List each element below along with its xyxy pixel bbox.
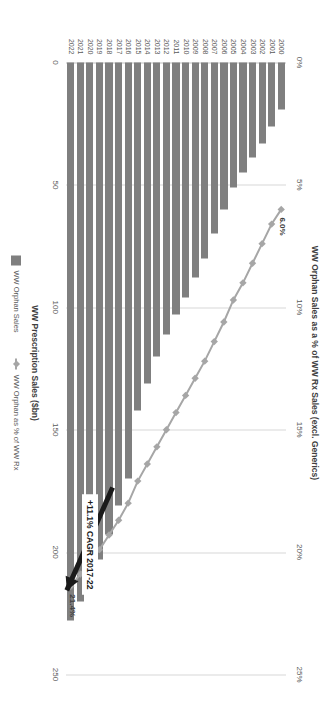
secondary-tick-label: 0% xyxy=(295,56,304,68)
legend-line-marker-icon xyxy=(11,358,22,369)
primary-tick-label: 200 xyxy=(51,545,60,558)
category-label: 2012 xyxy=(163,38,170,54)
category-label: 2002 xyxy=(259,38,266,54)
secondary-tick-label: 15% xyxy=(295,421,304,437)
primary-tick-label: 100 xyxy=(51,300,60,313)
category-label: 2000 xyxy=(278,38,285,54)
category-label: 2021 xyxy=(77,38,84,54)
secondary-axis-ticks: 0%5%10%15%20%25% xyxy=(290,62,304,674)
secondary-tick-label: 20% xyxy=(295,544,304,560)
category-label: 2001 xyxy=(268,38,275,54)
category-label: 2014 xyxy=(144,38,151,54)
category-label: 2018 xyxy=(106,38,113,54)
primary-axis-ticks: 050100150200250 xyxy=(46,62,60,674)
category-label: 2008 xyxy=(201,38,208,54)
secondary-tick-label: 25% xyxy=(295,666,304,682)
rotated-chart-frame: WW Orphan Sales as a % of WW Rx Sales (e… xyxy=(0,0,322,725)
category-label: 2006 xyxy=(220,38,227,54)
legend-bar-swatch-icon xyxy=(12,255,22,265)
category-label: 2010 xyxy=(182,38,189,54)
plot-area: 6.0%21.4% +11.1% CAGR 2017-22 xyxy=(66,62,286,674)
secondary-tick-label: 10% xyxy=(295,299,304,315)
primary-tick-label: 250 xyxy=(51,667,60,680)
category-label: 2016 xyxy=(125,38,132,54)
category-label: 2003 xyxy=(249,38,256,54)
category-label: 2013 xyxy=(153,38,160,54)
legend-label: WW Orphan Sales xyxy=(12,270,21,332)
category-label: 2004 xyxy=(239,38,246,54)
legend-item[interactable]: WW Orphan as % of WW Rx xyxy=(11,358,22,470)
category-label: 2015 xyxy=(134,38,141,54)
category-label: 2007 xyxy=(211,38,218,54)
category-axis-labels: 2000200120022003200420052006200720082009… xyxy=(66,0,286,58)
primary-tick-label: 0 xyxy=(51,60,60,64)
category-label: 2005 xyxy=(230,38,237,54)
chart-legend: WW Orphan SalesWW Orphan as % of WW Rx xyxy=(11,0,22,725)
category-label: 2019 xyxy=(96,38,103,54)
secondary-axis-title: WW Orphan Sales as a % of WW Rx Sales (e… xyxy=(310,0,320,725)
category-label: 2009 xyxy=(192,38,199,54)
primary-axis-title: WW Prescription Sales ($bn) xyxy=(30,0,40,725)
secondary-tick-label: 5% xyxy=(295,179,304,191)
legend-item[interactable]: WW Orphan Sales xyxy=(12,255,22,332)
category-label: 2020 xyxy=(86,38,93,54)
cagr-arrow xyxy=(66,62,286,674)
legend-label: WW Orphan as % of WW Rx xyxy=(12,374,21,470)
primary-tick-label: 150 xyxy=(51,423,60,436)
chart-canvas: WW Orphan Sales as a % of WW Rx Sales (e… xyxy=(0,0,322,725)
category-label: 2011 xyxy=(173,39,180,54)
category-label: 2017 xyxy=(115,38,122,54)
category-label: 2022 xyxy=(67,38,74,54)
primary-tick-label: 50 xyxy=(51,180,60,189)
cagr-callout-label: +11.1% CAGR 2017-22 xyxy=(82,494,98,594)
